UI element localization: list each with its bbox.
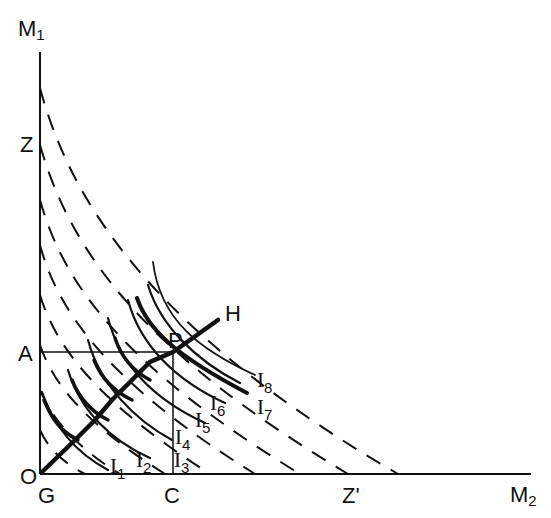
origin-label-O: O xyxy=(20,466,37,488)
heavy-curve-a xyxy=(44,400,78,440)
i-sub: 4 xyxy=(182,436,190,453)
point-label-P: P xyxy=(168,330,183,352)
indifference-label-8: I8 xyxy=(257,370,272,395)
i-base: I xyxy=(136,448,143,472)
axes xyxy=(40,52,531,474)
x-axis-label-text: M xyxy=(510,482,528,507)
indifference-label-5: I5 xyxy=(195,410,210,435)
indifference-label-2: I2 xyxy=(136,450,151,475)
indifference-label-7: I7 xyxy=(257,397,272,422)
i-base: I xyxy=(195,408,202,432)
x-axis-label-sub: 2 xyxy=(528,492,536,509)
point-label-A: A xyxy=(18,343,33,365)
i-sub: 3 xyxy=(181,459,189,476)
x-axis-label: M2 xyxy=(510,484,537,508)
i-base: I xyxy=(210,391,217,415)
i-sub: 6 xyxy=(217,402,225,419)
i-sub: 1 xyxy=(117,465,125,482)
indifference-label-4: I4 xyxy=(175,427,190,452)
point-label-H: H xyxy=(225,303,241,325)
point-label-C: C xyxy=(164,485,180,507)
i-sub: 7 xyxy=(264,406,272,423)
i-base: I xyxy=(257,395,264,419)
indifference-label-6: I6 xyxy=(210,393,225,418)
point-label-Z-prime: Z' xyxy=(342,485,360,507)
i-sub: 5 xyxy=(202,419,210,436)
origin-label-G: G xyxy=(38,485,55,507)
i-sub: 8 xyxy=(264,379,272,396)
i-sub: 2 xyxy=(143,459,151,476)
i-base: I xyxy=(110,454,117,478)
point-label-Z: Z xyxy=(20,134,33,156)
indifference-label-3: I3 xyxy=(174,450,189,475)
indifference-diagram xyxy=(0,0,551,518)
dashed-curve-7 xyxy=(40,145,348,474)
y-axis-label-text: M xyxy=(18,16,36,41)
i-base: I xyxy=(257,368,264,392)
indifference-label-1: I1 xyxy=(110,456,125,481)
y-axis-label-sub: 1 xyxy=(36,26,44,43)
i-base: I xyxy=(175,425,182,449)
y-axis-label: M1 xyxy=(18,18,45,42)
